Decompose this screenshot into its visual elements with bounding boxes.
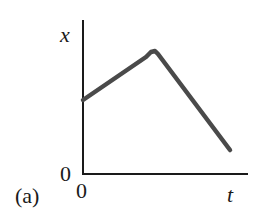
panel-label: (a) — [15, 185, 39, 207]
position-curve — [83, 51, 230, 150]
y-axis-label: x — [60, 24, 70, 46]
x-origin-label: 0 — [76, 180, 87, 202]
x-axis-label: t — [227, 184, 233, 206]
y-origin-label: 0 — [60, 163, 71, 185]
position-time-graph — [0, 0, 261, 213]
